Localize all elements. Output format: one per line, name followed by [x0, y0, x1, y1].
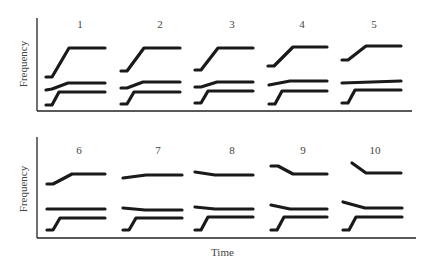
panel-label-8: 8: [222, 144, 242, 156]
formant-tracks: [46, 46, 402, 230]
panel-label-7: 7: [148, 144, 168, 156]
x-axis-label: Time: [211, 246, 234, 258]
panel-label-5: 5: [364, 18, 384, 30]
panel-label-2: 2: [150, 18, 170, 30]
panel-label-10: 10: [365, 144, 385, 156]
panel-label-3: 3: [222, 18, 242, 30]
panel-label-1: 1: [70, 18, 90, 30]
y-axis-label-bottom: Frequency: [17, 164, 29, 214]
panel-label-9: 9: [293, 144, 313, 156]
y-axis-label-top: Frequency: [17, 39, 29, 89]
panel-label-4: 4: [292, 18, 312, 30]
top-axes: [37, 18, 412, 111]
figure-canvas: [0, 0, 437, 268]
panel-label-6: 6: [69, 144, 89, 156]
